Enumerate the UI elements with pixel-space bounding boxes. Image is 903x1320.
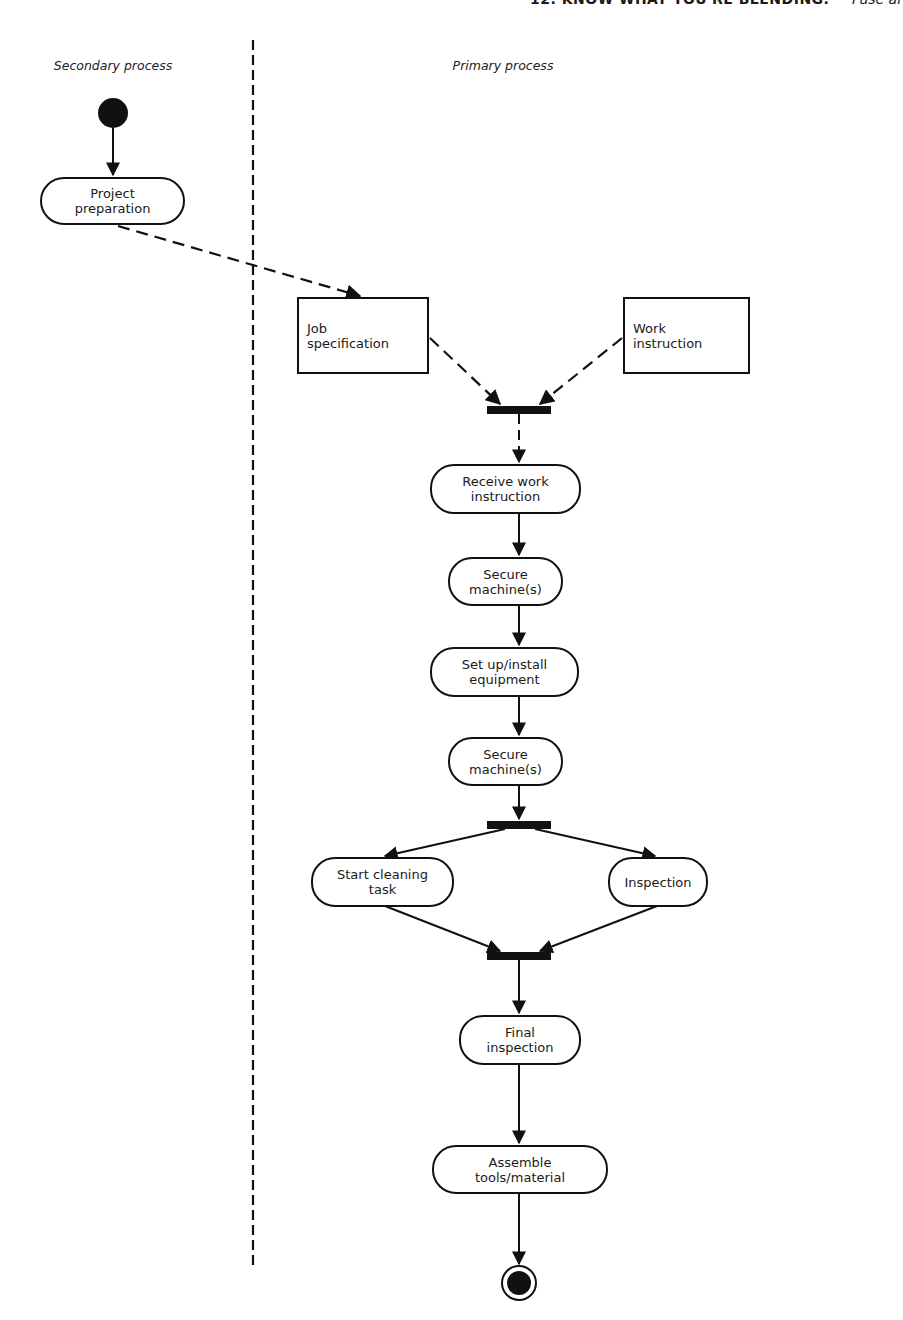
fork-bar-1: [487, 406, 551, 414]
object-work-instruction[interactable]: Work instruction: [623, 297, 750, 374]
activity-label: Project preparation: [75, 186, 151, 216]
activity-project-preparation[interactable]: Project preparation: [40, 177, 185, 225]
activity-assemble-tools-material[interactable]: Assemble tools/material: [432, 1145, 608, 1194]
activity-label: Start cleaning task: [337, 867, 428, 897]
activity-label: Secure machine(s): [469, 747, 542, 777]
activity-start-cleaning-task[interactable]: Start cleaning task: [311, 857, 454, 907]
activity-secure-machines-2[interactable]: Secure machine(s): [448, 737, 563, 786]
chapter-subtitle: Fuse ar: [852, 0, 903, 7]
object-job-specification[interactable]: Job specification: [297, 297, 429, 374]
activity-secure-machines-1[interactable]: Secure machine(s): [448, 557, 563, 606]
activity-final-inspection[interactable]: Final inspection: [459, 1015, 581, 1065]
activity-label: Secure machine(s): [469, 567, 542, 597]
activity-setup-install-equipment[interactable]: Set up/install equipment: [430, 647, 579, 697]
end-node-icon: [502, 1266, 536, 1300]
start-node-icon: [98, 98, 128, 128]
activity-label: Final inspection: [487, 1025, 554, 1055]
activity-label: Inspection: [624, 875, 691, 890]
activity-inspection[interactable]: Inspection: [608, 857, 708, 907]
activity-receive-work-instruction[interactable]: Receive work instruction: [430, 464, 581, 514]
activity-label: Set up/install equipment: [462, 657, 547, 687]
fork-bar-2: [487, 821, 551, 829]
join-bar: [487, 952, 551, 960]
activity-label: Assemble tools/material: [475, 1155, 565, 1185]
activity-label: Receive work instruction: [462, 474, 549, 504]
object-label: Job specification: [307, 321, 389, 351]
object-label: Work instruction: [633, 321, 702, 351]
